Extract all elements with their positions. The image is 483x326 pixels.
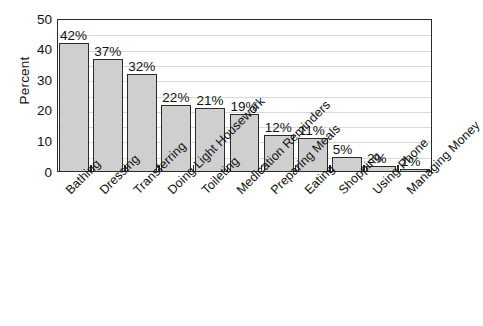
bar-value-label: 19% <box>231 100 258 114</box>
bar-value-label: 2% <box>367 152 387 166</box>
x-axis-category-label: Eating <box>302 162 336 196</box>
bar-value-label: 11% <box>299 124 325 138</box>
bar-value-label: 1% <box>401 155 421 169</box>
bar-value-label: 37% <box>94 45 121 59</box>
bar-value-label: 42% <box>60 29 87 43</box>
bar-value-label: 21% <box>196 94 223 108</box>
x-axis-category-label: Bathing <box>64 157 103 196</box>
bar-value-label: 12% <box>265 121 292 135</box>
bar-value-label: 32% <box>128 60 155 74</box>
bar-value-label: 5% <box>333 143 353 157</box>
bar-value-label: 22% <box>162 91 189 105</box>
